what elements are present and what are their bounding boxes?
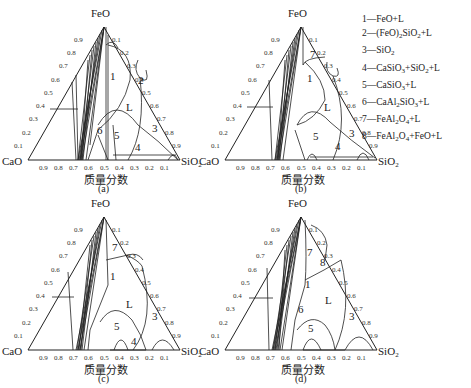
svg-text:0.7: 0.7: [157, 115, 166, 123]
svg-text:0.7: 0.7: [69, 354, 78, 362]
ternary-diagram-d: FeO CaO SiO2 0.10.20.3 0.40.50.6 0.70.80…: [225, 190, 425, 385]
svg-text:0.1: 0.1: [160, 354, 169, 362]
vertex-cao: CaO: [2, 155, 22, 167]
svg-text:0.8: 0.8: [54, 354, 63, 362]
region-L: L: [126, 101, 133, 113]
svg-text:0.2: 0.2: [342, 164, 351, 172]
panel-label: (c): [98, 373, 109, 384]
svg-text:0.1: 0.1: [309, 36, 318, 44]
svg-text:0.8: 0.8: [362, 129, 371, 137]
svg-text:0.6: 0.6: [150, 292, 159, 300]
svg-text:0.1: 0.1: [14, 332, 23, 340]
region-8: 8: [320, 256, 326, 268]
svg-text:0.6: 0.6: [51, 266, 60, 274]
phase-diagram-plot: 0.10.20.3 0.40.50.6 0.70.80.9 0.10.20.3 …: [28, 0, 228, 195]
region-L: L: [324, 101, 331, 113]
region-3: 3: [349, 127, 355, 139]
ternary-diagram-a: FeO CaO SiO2 0.10.20.3 0.40.50.6 0.70.80…: [28, 0, 228, 195]
svg-text:0.7: 0.7: [354, 115, 363, 123]
svg-text:0.2: 0.2: [219, 129, 228, 137]
svg-text:0.3: 0.3: [324, 62, 333, 70]
vertex-cao: CaO: [199, 155, 219, 167]
svg-text:0.9: 0.9: [39, 164, 48, 172]
svg-text:0.3: 0.3: [226, 115, 235, 123]
svg-text:0.4: 0.4: [233, 292, 242, 300]
svg-text:0.1: 0.1: [357, 354, 366, 362]
svg-text:0.9: 0.9: [369, 332, 378, 340]
svg-text:0.1: 0.1: [357, 164, 366, 172]
region-3: 3: [152, 310, 158, 322]
svg-text:0.5: 0.5: [44, 279, 53, 287]
svg-text:0.2: 0.2: [22, 319, 31, 327]
phase-diagram-plot: 0.10.20.3 0.40.50.6 0.70.80.9 0.10.20.3 …: [28, 190, 228, 385]
svg-text:0.9: 0.9: [172, 142, 181, 150]
svg-text:0.5: 0.5: [142, 89, 151, 97]
svg-text:0.5: 0.5: [339, 89, 348, 97]
region-4: 4: [335, 140, 341, 152]
svg-text:0.9: 0.9: [236, 164, 245, 172]
svg-text:0.7: 0.7: [266, 354, 275, 362]
svg-text:0.9: 0.9: [74, 226, 83, 234]
svg-text:0.6: 0.6: [150, 102, 159, 110]
svg-text:0.5: 0.5: [44, 89, 53, 97]
region-4: 4: [135, 141, 141, 153]
region-3: 3: [152, 122, 158, 134]
svg-text:0.3: 0.3: [29, 305, 38, 313]
region-5: 5: [114, 320, 120, 332]
svg-text:0.7: 0.7: [59, 62, 68, 70]
region-1: 1: [305, 278, 311, 290]
svg-text:0.2: 0.2: [145, 354, 154, 362]
svg-text:0.7: 0.7: [266, 164, 275, 172]
svg-text:0.6: 0.6: [248, 266, 257, 274]
svg-text:0.4: 0.4: [36, 292, 45, 300]
svg-text:0.8: 0.8: [67, 49, 76, 57]
region-1: 1: [110, 70, 116, 82]
svg-text:0.7: 0.7: [59, 252, 68, 260]
svg-text:0.4: 0.4: [233, 102, 242, 110]
region-7: 7: [307, 246, 313, 258]
svg-text:0.2: 0.2: [317, 49, 326, 57]
svg-text:0.1: 0.1: [160, 164, 169, 172]
svg-text:0.2: 0.2: [120, 239, 129, 247]
region-5: 5: [308, 322, 314, 334]
svg-text:0.9: 0.9: [39, 354, 48, 362]
svg-text:0.5: 0.5: [142, 279, 151, 287]
svg-text:0.9: 0.9: [369, 142, 378, 150]
svg-text:0.8: 0.8: [165, 319, 174, 327]
svg-text:0.2: 0.2: [342, 354, 351, 362]
region-6: 6: [97, 124, 103, 136]
region-L: L: [325, 294, 332, 306]
svg-text:0.8: 0.8: [67, 239, 76, 247]
region-L: L: [126, 298, 133, 310]
region-2: 2: [138, 74, 144, 86]
vertex-cao: CaO: [199, 345, 219, 357]
svg-text:0.9: 0.9: [271, 36, 280, 44]
region-5: 5: [114, 129, 120, 141]
svg-text:0.3: 0.3: [130, 354, 139, 362]
svg-text:0.8: 0.8: [165, 129, 174, 137]
region-1: 1: [110, 270, 116, 282]
svg-text:0.2: 0.2: [145, 164, 154, 172]
region-7: 7: [310, 48, 316, 60]
svg-text:0.9: 0.9: [74, 36, 83, 44]
vertex-cao: CaO: [2, 345, 22, 357]
svg-text:0.2: 0.2: [22, 129, 31, 137]
svg-text:0.8: 0.8: [362, 319, 371, 327]
svg-text:0.8: 0.8: [251, 354, 260, 362]
svg-text:0.9: 0.9: [236, 354, 245, 362]
svg-text:0.2: 0.2: [120, 49, 129, 57]
svg-text:0.8: 0.8: [251, 164, 260, 172]
region-1: 1: [307, 72, 313, 84]
svg-text:0.1: 0.1: [112, 226, 121, 234]
svg-text:0.1: 0.1: [211, 142, 220, 150]
phase-diagram-plot: 0.10.20.3 0.40.50.6 0.70.80.9 0.10.20.3 …: [225, 0, 425, 195]
svg-text:0.2: 0.2: [317, 239, 326, 247]
region-5: 5: [313, 130, 319, 142]
svg-text:0.9: 0.9: [271, 226, 280, 234]
svg-text:0.7: 0.7: [256, 252, 265, 260]
svg-text:0.4: 0.4: [332, 266, 341, 274]
ternary-diagram-b: FeO CaO SiO2 0.10.20.3 0.40.50.6 0.70.80…: [225, 0, 425, 195]
phase-diagram-plot: 0.10.20.3 0.40.50.6 0.70.80.9 0.10.20.3 …: [225, 190, 425, 385]
svg-text:0.5: 0.5: [241, 89, 250, 97]
svg-text:0.3: 0.3: [327, 354, 336, 362]
